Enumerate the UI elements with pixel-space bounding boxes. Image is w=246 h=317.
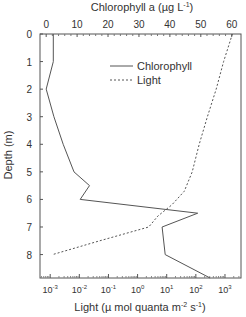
top-tick-label: 60: [226, 19, 238, 30]
y-tick-label: 0: [26, 29, 32, 40]
y-tick-label: 8: [26, 250, 32, 261]
y-tick-label: 7: [26, 222, 32, 233]
legend: Chlorophyll Light: [110, 60, 192, 86]
y-axis-ticks: 012345678: [26, 29, 43, 261]
depth-profile-chart: Chlorophyll a (µg L-1) Light (µ mol quan…: [0, 0, 246, 317]
y-tick-label: 5: [26, 167, 32, 178]
y-tick-label: 2: [26, 84, 32, 95]
legend-chlorophyll-label: Chlorophyll: [137, 60, 192, 72]
top-tick-label: 20: [102, 19, 114, 30]
bottom-tick-label: 101: [160, 284, 174, 295]
bottom-tick-label: 102: [189, 284, 203, 295]
bottom-tick-label: 10-3: [43, 284, 59, 295]
bottom-tick-label: 100: [131, 284, 145, 295]
top-axis-title: Chlorophyll a (µg L-1): [91, 1, 193, 13]
y-tick-label: 4: [26, 139, 32, 150]
bottom-tick-label: 10-1: [101, 284, 117, 295]
bottom-axis-title: Light (µ mol quanta m-2 s-1): [74, 301, 205, 313]
bottom-tick-label: 10-2: [72, 284, 88, 295]
y-tick-label: 1: [26, 57, 32, 68]
top-tick-label: 0: [43, 19, 49, 30]
top-tick-label: 50: [195, 19, 207, 30]
y-tick-label: 3: [26, 112, 32, 123]
bottom-tick-label: 103: [218, 284, 232, 295]
top-tick-label: 40: [164, 19, 176, 30]
legend-light-label: Light: [137, 74, 161, 86]
top-tick-label: 10: [72, 19, 84, 30]
top-tick-label: 30: [133, 19, 145, 30]
y-tick-label: 6: [26, 194, 32, 205]
y-axis-title: Depth (m): [2, 131, 14, 180]
